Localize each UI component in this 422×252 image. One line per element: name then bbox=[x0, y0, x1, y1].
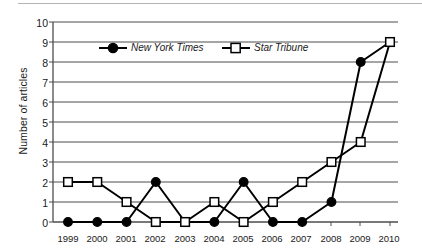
legend-marker-new-york-times bbox=[99, 43, 127, 52]
series-layer bbox=[64, 38, 395, 227]
data-point bbox=[210, 198, 219, 207]
data-point bbox=[181, 218, 190, 227]
series-line bbox=[68, 42, 390, 222]
series-new-york-times bbox=[64, 38, 395, 227]
data-point bbox=[152, 178, 161, 187]
data-point bbox=[327, 198, 336, 207]
data-point bbox=[210, 218, 219, 227]
data-point bbox=[122, 218, 131, 227]
data-point bbox=[152, 218, 161, 227]
data-point bbox=[269, 218, 278, 227]
data-point bbox=[298, 218, 307, 227]
data-point bbox=[298, 178, 307, 187]
data-point bbox=[122, 198, 131, 207]
data-point bbox=[269, 198, 278, 207]
data-point bbox=[327, 158, 336, 167]
data-point bbox=[239, 218, 248, 227]
series-star-tribune bbox=[64, 38, 395, 227]
data-point bbox=[93, 218, 102, 227]
legend-label-new-york-times: New York Times bbox=[131, 43, 204, 53]
legend-label-star-tribune: Star Tribune bbox=[254, 43, 308, 53]
line-chart-figure: Number of articles 10 9 8 7 6 5 4 3 2 1 … bbox=[0, 0, 422, 252]
data-point bbox=[64, 218, 73, 227]
data-point bbox=[356, 138, 365, 147]
legend-marker-star-tribune bbox=[222, 43, 250, 52]
data-point bbox=[93, 178, 102, 187]
data-point bbox=[64, 178, 73, 187]
data-point bbox=[239, 178, 248, 187]
plot-area bbox=[0, 0, 422, 252]
data-point bbox=[356, 58, 365, 67]
data-point bbox=[386, 38, 395, 47]
